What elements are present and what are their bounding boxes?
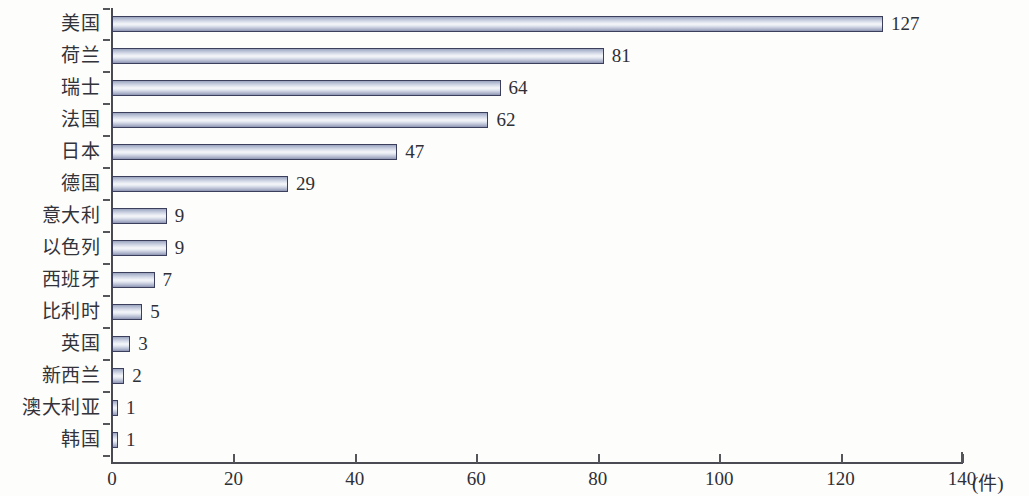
bar-container: 5 — [112, 296, 962, 328]
plot-area: 美国127荷兰81瑞士64法国62日本47德国29意大利9以色列9西班牙7比利时… — [0, 0, 1029, 496]
bar-container: 3 — [112, 328, 962, 360]
bar-value-label: 3 — [138, 328, 148, 360]
category-label: 英国 — [0, 328, 100, 360]
bar-container: 7 — [112, 264, 962, 296]
bar-row: 荷兰81 — [0, 40, 1029, 72]
x-axis-tick-label: 120 — [811, 468, 871, 490]
bar — [112, 144, 397, 160]
bar-value-label: 1 — [126, 424, 136, 456]
bar-value-label: 29 — [296, 168, 315, 200]
bar-value-label: 64 — [509, 72, 528, 104]
bar-row: 韩国1 — [0, 424, 1029, 456]
bar-container: 47 — [112, 136, 962, 168]
bar — [112, 400, 118, 416]
bar — [112, 176, 288, 192]
bar — [112, 368, 124, 384]
category-label: 荷兰 — [0, 40, 100, 72]
bar-container: 64 — [112, 72, 962, 104]
bar — [112, 240, 167, 256]
category-label: 新西兰 — [0, 360, 100, 392]
bar-value-label: 62 — [496, 104, 515, 136]
bar-row: 意大利9 — [0, 200, 1029, 232]
bar-value-label: 81 — [612, 40, 631, 72]
bar-container: 9 — [112, 200, 962, 232]
bar-value-label: 47 — [405, 136, 424, 168]
category-label: 日本 — [0, 136, 100, 168]
x-axis-line — [111, 462, 963, 464]
bar — [112, 112, 488, 128]
x-axis-tick-label: 20 — [203, 468, 263, 490]
category-label: 美国 — [0, 8, 100, 40]
category-label: 以色列 — [0, 232, 100, 264]
bar-value-label: 2 — [132, 360, 142, 392]
bar — [112, 432, 118, 448]
bar-value-label: 7 — [163, 264, 173, 296]
bar-row: 以色列9 — [0, 232, 1029, 264]
category-label: 韩国 — [0, 424, 100, 456]
bar-row: 日本47 — [0, 136, 1029, 168]
x-axis-tick-label: 100 — [689, 468, 749, 490]
bar-value-label: 9 — [175, 232, 185, 264]
bar — [112, 80, 501, 96]
bar-row: 新西兰2 — [0, 360, 1029, 392]
category-label: 比利时 — [0, 296, 100, 328]
bar-container: 127 — [112, 8, 962, 40]
bar-container: 2 — [112, 360, 962, 392]
x-axis-tick-label: 0 — [82, 468, 142, 490]
bar-row: 澳大利亚1 — [0, 392, 1029, 424]
bar — [112, 336, 130, 352]
x-axis-tick-label: 40 — [325, 468, 385, 490]
bar-container: 1 — [112, 392, 962, 424]
bar-value-label: 5 — [150, 296, 160, 328]
bar — [112, 48, 604, 64]
bar — [112, 304, 142, 320]
category-label: 意大利 — [0, 200, 100, 232]
bar-row: 法国62 — [0, 104, 1029, 136]
bar-container: 62 — [112, 104, 962, 136]
bar-row: 英国3 — [0, 328, 1029, 360]
bar-row: 美国127 — [0, 8, 1029, 40]
bar-chart: 美国127荷兰81瑞士64法国62日本47德国29意大利9以色列9西班牙7比利时… — [0, 0, 1029, 496]
x-axis-unit-label: (件) — [972, 468, 1004, 495]
category-label: 西班牙 — [0, 264, 100, 296]
bar-container: 9 — [112, 232, 962, 264]
bar — [112, 272, 155, 288]
category-label: 法国 — [0, 104, 100, 136]
bar-value-label: 127 — [891, 8, 920, 40]
bar-container: 81 — [112, 40, 962, 72]
bar-row: 德国29 — [0, 168, 1029, 200]
x-axis-tick-label: 60 — [446, 468, 506, 490]
bar-container: 29 — [112, 168, 962, 200]
bar-container: 1 — [112, 424, 962, 456]
bar-value-label: 9 — [175, 200, 185, 232]
bar-row: 瑞士64 — [0, 72, 1029, 104]
category-label: 德国 — [0, 168, 100, 200]
bar — [112, 16, 883, 32]
category-label: 澳大利亚 — [0, 392, 100, 424]
category-label: 瑞士 — [0, 72, 100, 104]
bar — [112, 208, 167, 224]
bar-value-label: 1 — [126, 392, 136, 424]
x-axis-tick-label: 80 — [568, 468, 628, 490]
bar-row: 比利时5 — [0, 296, 1029, 328]
bar-row: 西班牙7 — [0, 264, 1029, 296]
